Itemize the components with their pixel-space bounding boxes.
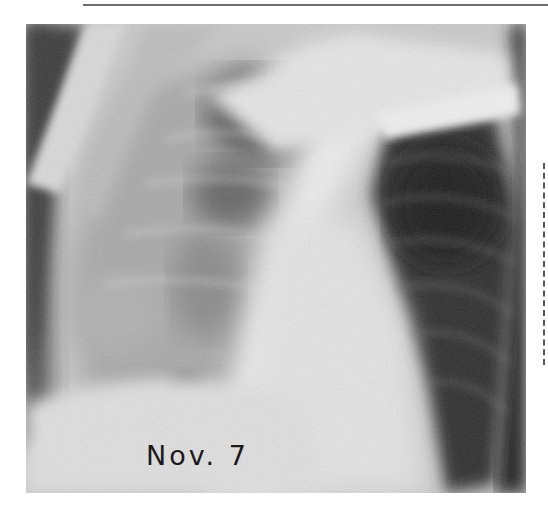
chest-xray-image [26,24,526,493]
dashed-margin-rule [543,163,545,365]
date-caption: Nov. 7 [146,440,249,471]
top-rule [83,4,548,6]
